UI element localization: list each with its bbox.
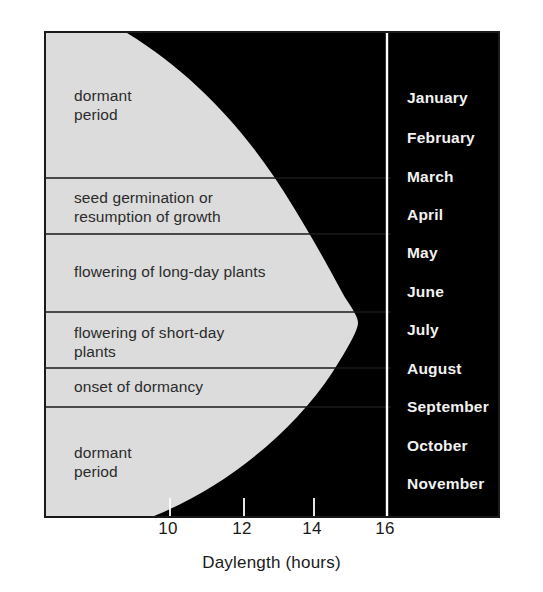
tick-label-12: 12 xyxy=(232,519,252,539)
daylength-photoperiod-figure: dormant period seed germination or resum… xyxy=(0,0,543,592)
month-label-march: March xyxy=(407,168,454,186)
month-label-july: July xyxy=(407,321,439,339)
tick-label-10: 10 xyxy=(158,519,178,539)
tick-label-16: 16 xyxy=(375,519,395,539)
month-label-october: October xyxy=(407,437,468,455)
tick-label-14: 14 xyxy=(302,519,322,539)
month-label-june: June xyxy=(407,283,444,301)
x-axis-tick-labels: 10 12 14 16 xyxy=(0,519,543,553)
month-label-may: May xyxy=(407,244,438,262)
month-label-august: August xyxy=(407,360,462,378)
month-label-september: September xyxy=(407,398,489,416)
month-label-january: January xyxy=(407,89,468,107)
month-axis: January February March April May June Ju… xyxy=(391,33,498,516)
month-label-december: December xyxy=(407,514,484,518)
month-label-november: November xyxy=(407,475,484,493)
month-label-february: February xyxy=(407,129,475,147)
plot-area: dormant period seed germination or resum… xyxy=(44,31,500,518)
month-label-april: April xyxy=(407,206,443,224)
x-axis-title: Daylength (hours) xyxy=(0,553,543,573)
